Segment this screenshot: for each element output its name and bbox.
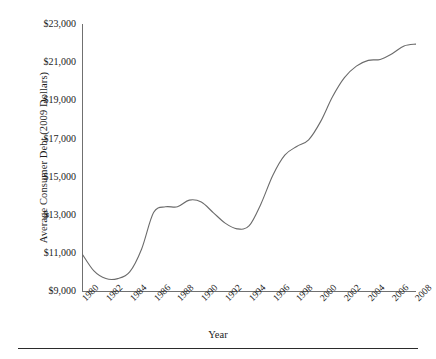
x-tick-label: 1988 <box>175 283 196 304</box>
x-tick-label: 2000 <box>318 283 339 304</box>
figure-rule-divider <box>18 348 418 349</box>
x-axis-title: Year <box>0 329 436 340</box>
x-tick-label: 1992 <box>223 283 244 304</box>
x-tick-label: 1980 <box>80 283 101 304</box>
x-tick-label: 2006 <box>390 283 411 304</box>
x-axis-tick-labels: 1980 1982 1984 1986 1988 1990 1992 1994 … <box>0 0 436 359</box>
x-tick-label: 1984 <box>128 283 149 304</box>
x-tick-label: 1990 <box>199 283 220 304</box>
chart-figure: Average Consumer Debt (2009 Dollars) $23… <box>0 0 436 359</box>
x-tick-label: 1996 <box>271 283 292 304</box>
x-tick-label: 2004 <box>366 283 387 304</box>
x-tick-label: 2008 <box>413 283 434 304</box>
x-tick-label: 1986 <box>152 283 173 304</box>
x-tick-label: 1998 <box>294 283 315 304</box>
x-tick-label: 1982 <box>104 283 125 304</box>
x-tick-label: 1994 <box>247 283 268 304</box>
x-tick-label: 2002 <box>342 283 363 304</box>
